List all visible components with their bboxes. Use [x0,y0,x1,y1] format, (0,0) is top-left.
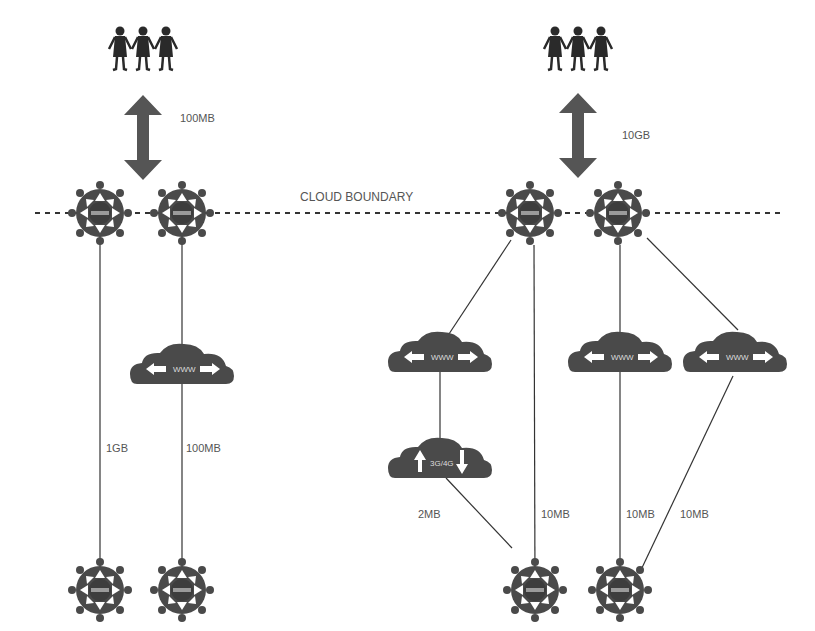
svg-text:3G/4G: 3G/4G [430,459,454,468]
right-link-10mb-label-3: 10MB [680,508,709,520]
left-link-2-label: 100MB [186,442,221,454]
right-double-arrow-icon [559,93,597,178]
right-link-2mb-label: 2MB [418,508,441,520]
right-router-bottom-1 [503,558,567,622]
cloud-boundary-label: CLOUD BOUNDARY [300,190,413,204]
left-router-top-1 [68,181,132,245]
left-users-link-label: 100MB [180,112,215,124]
right-link-r2-cloud3 [647,238,738,330]
left-double-arrow-icon [124,95,162,180]
left-router-bottom-2 [150,558,214,622]
left-cloud-label: WWW [173,365,196,374]
left-link-1-label: 1GB [106,442,128,454]
right-router-bottom-2 [588,558,652,622]
right-router-top-1 [498,181,562,245]
right-link-10mb-label-1: 10MB [541,508,570,520]
svg-text:WWW: WWW [611,353,634,362]
right-link-r1-cloud1 [445,240,511,340]
right-router-top-2 [586,181,650,245]
svg-text:WWW: WWW [431,353,454,362]
right-www-cloud-2-icon: WWW [568,332,672,372]
right-www-cloud-1-icon: WWW [388,332,492,372]
right-link-10mb-label-2: 10MB [626,508,655,520]
svg-text:WWW: WWW [726,353,749,362]
right-3g4g-cloud-icon: 3G/4G [388,438,492,478]
network-diagram: CLOUD BOUNDARY 100MB 1GB 100MB WWW 10GB … [0,0,815,631]
left-users-icon [109,27,177,71]
right-link-cloud3-bottom2 [640,376,733,572]
left-www-cloud-icon: WWW [130,344,234,384]
left-router-top-2 [150,181,214,245]
right-users-link-label: 10GB [622,129,650,141]
left-router-bottom-1 [68,558,132,622]
right-users-icon [544,27,612,71]
right-www-cloud-3-icon: WWW [683,332,787,372]
right-link-r1-bottom1 [534,245,535,590]
right-link-3g4g-bottom1 [446,478,512,548]
